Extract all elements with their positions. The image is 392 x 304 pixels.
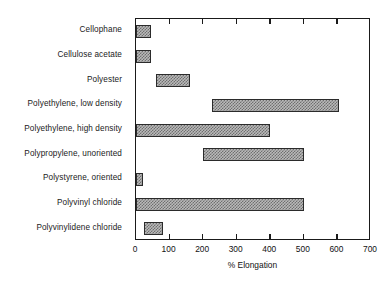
category-axis-labels: CellophaneCellulose acetatePolyesterPoly…: [0, 18, 128, 240]
bar: [136, 124, 270, 137]
x-axis-tick-labels: 0100200300400500600700: [135, 244, 370, 258]
x-tick-label: 300: [229, 244, 243, 255]
plot-area: [135, 18, 370, 240]
category-label: Polyester: [87, 75, 122, 85]
category-label: Cellulose acetate: [57, 50, 122, 60]
category-label: Polystyrene, oriented: [43, 173, 122, 183]
x-tick-label: 600: [329, 244, 343, 255]
bar: [136, 198, 304, 211]
bar: [136, 25, 151, 38]
bar: [212, 99, 340, 112]
category-label: Polypropylene, unoriented: [24, 149, 122, 159]
x-tick-label: 500: [296, 244, 310, 255]
x-axis-title: % Elongation: [135, 260, 370, 270]
category-label: Polyethylene, high density: [24, 124, 122, 134]
bar: [156, 74, 190, 87]
x-tick-label: 0: [133, 244, 138, 255]
category-label: Polyvinylidene chloride: [36, 223, 122, 233]
elongation-bar-chart: CellophaneCellulose acetatePolyesterPoly…: [0, 0, 392, 304]
bar: [203, 148, 304, 161]
bar: [144, 222, 162, 235]
x-tick-label: 700: [363, 244, 377, 255]
category-label: Polyethylene, low density: [28, 99, 122, 109]
category-label: Cellophane: [80, 25, 122, 35]
x-tick-label: 400: [262, 244, 276, 255]
bar: [136, 173, 143, 186]
category-label: Polyvinyl chloride: [57, 198, 122, 208]
x-tick-label: 100: [162, 244, 176, 255]
bar: [136, 50, 151, 63]
x-tick-label: 200: [195, 244, 209, 255]
